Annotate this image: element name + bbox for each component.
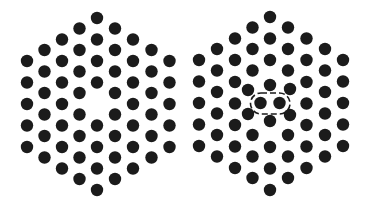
lattice-atom [229, 76, 241, 88]
lattice-atom [284, 109, 296, 121]
lattice-atom [73, 87, 85, 99]
lattice-atom [109, 173, 121, 185]
lattice-atom [91, 12, 103, 24]
lattice-atom [21, 55, 33, 67]
lattice-atom [91, 76, 103, 88]
lattice-atom [91, 184, 103, 196]
lattice-atom [264, 141, 276, 153]
lattice-atom [73, 44, 85, 56]
lattice-atom [21, 119, 33, 131]
lattice-atom [229, 162, 241, 174]
lattice-atom [211, 150, 223, 162]
lattice-atom [91, 141, 103, 153]
lattice-atom [264, 11, 276, 23]
lattice-atom [163, 76, 175, 88]
lattice-atom [21, 141, 33, 153]
lattice-atom [109, 130, 121, 142]
lattice-atom [109, 151, 121, 163]
lattice-atom [38, 151, 50, 163]
lattice-atom [229, 97, 241, 109]
lattice-atom [319, 129, 331, 141]
lattice-atom [56, 98, 68, 110]
lattice-atom [73, 130, 85, 142]
lattice-atom [127, 141, 139, 153]
lattice-atom [193, 118, 205, 130]
lattice-atom [127, 55, 139, 67]
lattice-atom [282, 21, 294, 33]
lattice-atom [211, 64, 223, 76]
lattice-atom [319, 86, 331, 98]
lattice-atom [193, 54, 205, 66]
lattice-atom [145, 44, 157, 56]
lattice-atom [91, 55, 103, 67]
lattice-atom [56, 119, 68, 131]
defect-lattice-diagram [0, 0, 368, 215]
lattice-atom [109, 108, 121, 120]
lattice-atom [337, 54, 349, 66]
lattice-atom [246, 129, 258, 141]
lattice-atom [163, 119, 175, 131]
lattice-atom [193, 75, 205, 87]
lattice-atom [145, 65, 157, 77]
lattice-atom [163, 98, 175, 110]
lattice-atom [163, 55, 175, 67]
lattice-atom [319, 107, 331, 119]
lattice-atom [38, 108, 50, 120]
lattice-atom [38, 65, 50, 77]
lattice-atom [193, 140, 205, 152]
lattice-atom [246, 172, 258, 184]
lattice-atom [21, 76, 33, 88]
lattice-atom [56, 162, 68, 174]
lattice-atom [319, 64, 331, 76]
lattice-atom [109, 22, 121, 34]
lattice-atom [319, 43, 331, 55]
lattice-atom [211, 129, 223, 141]
lattice-atom [229, 140, 241, 152]
lattice-atom [319, 150, 331, 162]
lattice-atom [145, 130, 157, 142]
interstitial-atom [273, 97, 285, 109]
lattice-atom [109, 65, 121, 77]
lattice-atom [242, 84, 254, 96]
lattice-atom [284, 83, 296, 95]
lattice-atom [264, 79, 276, 91]
lattice-atom [264, 32, 276, 44]
lattice-atom [56, 55, 68, 67]
lattice-atom [56, 76, 68, 88]
lattice-atom [127, 119, 139, 131]
lattice-atom [337, 75, 349, 87]
lattice-atom [229, 54, 241, 66]
lattice-atom [127, 76, 139, 88]
lattice-atom [73, 22, 85, 34]
lattice-atom [282, 64, 294, 76]
lattice-atom [211, 107, 223, 119]
lattice-atom [109, 87, 121, 99]
lattice-atom [127, 98, 139, 110]
lattice-atom [337, 97, 349, 109]
lattice-atom [193, 97, 205, 109]
lattice-atom [127, 162, 139, 174]
lattice-atom [300, 97, 312, 109]
lattice-atom [264, 115, 276, 127]
lattice-atom [282, 43, 294, 55]
lattice-atom [56, 141, 68, 153]
lattice-atom [300, 140, 312, 152]
lattice-atom [145, 151, 157, 163]
lattice-atom [246, 21, 258, 33]
lattice-atom [300, 32, 312, 44]
lattice-atom [282, 150, 294, 162]
lattice-atom [337, 140, 349, 152]
lattice-atom [211, 86, 223, 98]
lattice-atom [300, 54, 312, 66]
lattice-atom [246, 150, 258, 162]
lattice-atom [109, 44, 121, 56]
lattice-atom [163, 141, 175, 153]
lattice-atom [337, 118, 349, 130]
lattice-atom [73, 151, 85, 163]
lattice-atom [264, 162, 276, 174]
split-interstitial-lattice-panel [193, 11, 349, 196]
lattice-atom [300, 119, 312, 131]
lattice-atom [246, 64, 258, 76]
lattice-atom [229, 119, 241, 131]
lattice-atom [282, 129, 294, 141]
